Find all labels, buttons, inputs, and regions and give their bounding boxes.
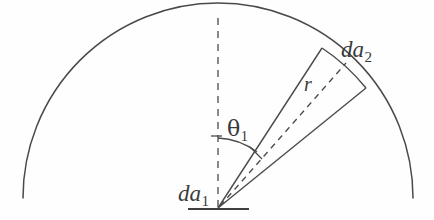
label-theta1-base: θ xyxy=(227,116,240,141)
label-da1-subscript: 1 xyxy=(201,192,209,209)
label-r: r xyxy=(304,74,312,94)
label-da1-base: da xyxy=(178,181,201,206)
label-theta1: θ1 xyxy=(227,118,248,143)
cone-lower-edge xyxy=(218,88,366,208)
label-r-base: r xyxy=(304,73,312,95)
hemisphere-solid-angle-diagram: da2 da1 r θ1 xyxy=(0,0,434,220)
label-da2-subscript: 2 xyxy=(364,48,372,65)
label-da2-base: da xyxy=(341,37,364,62)
diagram-canvas xyxy=(0,0,434,220)
label-da1: da1 xyxy=(178,182,209,208)
label-theta1-subscript: 1 xyxy=(240,128,248,144)
label-da2: da2 xyxy=(341,38,372,64)
